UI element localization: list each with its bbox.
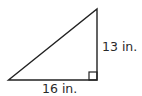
horizontal-side-label: 16 in. [42,81,77,96]
vertical-side-label: 13 in. [102,39,137,54]
triangle-shape [9,9,98,80]
right-triangle-diagram: 13 in. 16 in. [0,0,142,96]
right-angle-marker [89,72,97,80]
